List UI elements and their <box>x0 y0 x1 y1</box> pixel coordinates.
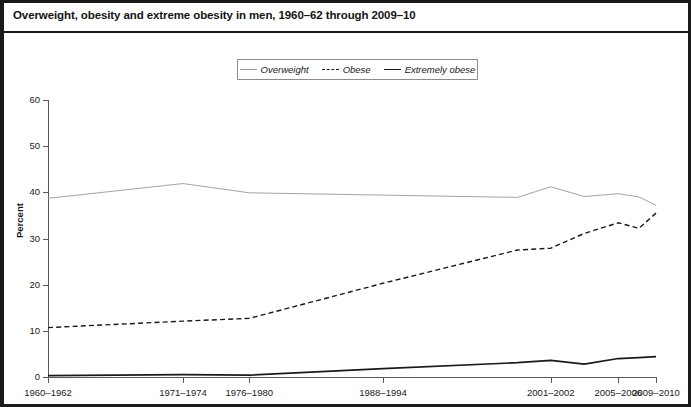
legend-label-extremely-obese: Extremely obese <box>405 64 476 75</box>
series-lines <box>48 100 656 377</box>
y-tick-label-50: 50 <box>0 140 40 151</box>
chart-legend: Overweight Obese Extremely obese <box>237 59 478 80</box>
legend-swatch-obese-icon <box>322 67 339 73</box>
x-tick-3 <box>383 377 384 383</box>
legend-label-obese: Obese <box>343 64 371 75</box>
x-tick-label-2: 1976–1980 <box>225 387 273 398</box>
y-tick-label-40: 40 <box>0 186 40 197</box>
series-line-obese <box>48 213 656 327</box>
x-tick-6 <box>656 377 657 383</box>
y-tick-label-20: 20 <box>0 279 40 290</box>
y-tick-label-30: 30 <box>0 233 40 244</box>
chart-title: Overweight, obesity and extreme obesity … <box>13 9 653 21</box>
y-tick-label-10: 10 <box>0 325 40 336</box>
x-tick-label-6: 2009–2010 <box>632 387 680 398</box>
x-tick-label-0: 1960–1962 <box>24 387 72 398</box>
legend-swatch-extremely-obese-icon <box>384 67 401 73</box>
legend-item-overweight: Overweight <box>240 64 309 75</box>
top-rule <box>0 0 691 3</box>
x-tick-0 <box>48 377 49 383</box>
plot-area <box>48 100 656 377</box>
legend-swatch-overweight-icon <box>240 67 257 73</box>
x-tick-5 <box>618 377 619 383</box>
x-tick-label-3: 1988–1994 <box>359 387 407 398</box>
series-line-overweight <box>48 184 656 206</box>
x-tick-1 <box>183 377 184 383</box>
y-tick-label-60: 60 <box>0 94 40 105</box>
legend-item-extremely-obese: Extremely obese <box>384 64 476 75</box>
x-axis-line <box>48 377 657 378</box>
left-border <box>0 0 4 407</box>
x-tick-label-1: 1971–1974 <box>159 387 207 398</box>
x-tick-4 <box>551 377 552 383</box>
series-line-extremely-obese <box>48 357 656 376</box>
x-tick-2 <box>249 377 250 383</box>
y-tick-label-0: 0 <box>0 371 40 382</box>
title-separator-rule <box>4 31 688 33</box>
legend-label-overweight: Overweight <box>261 64 309 75</box>
figure-panel: Overweight, obesity and extreme obesity … <box>0 0 691 407</box>
legend-item-obese: Obese <box>322 64 371 75</box>
x-tick-label-4: 2001–2002 <box>527 387 575 398</box>
